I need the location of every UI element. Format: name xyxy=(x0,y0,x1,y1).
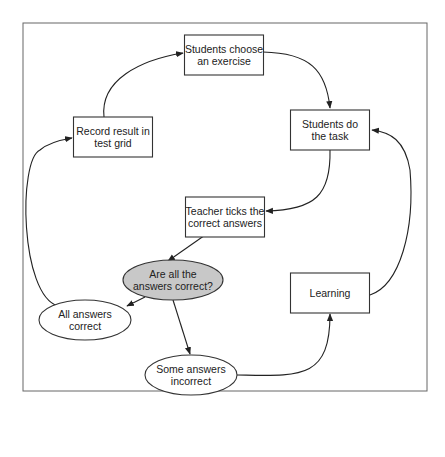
node-some-label: Some answers xyxy=(156,363,225,375)
flowchart-diagram: Students choosean exerciseStudents dothe… xyxy=(0,0,445,457)
node-record: Record result intest grid xyxy=(74,117,153,157)
node-ticks-label: Teacher ticks the xyxy=(186,205,265,217)
node-learning-label: Learning xyxy=(310,287,351,299)
node-decision-label: Are all the xyxy=(149,268,196,280)
node-choose-label: an exercise xyxy=(197,55,251,67)
node-learning: Learning xyxy=(291,273,370,313)
node-choose-label: Students choose xyxy=(185,43,263,55)
node-task-label: Students do xyxy=(302,118,358,130)
node-decision-label: answers correct? xyxy=(133,280,213,292)
node-decision: Are all theanswers correct? xyxy=(123,260,223,300)
node-record-label: Record result in xyxy=(76,125,150,137)
node-task-label: the task xyxy=(312,130,350,142)
node-ticks: Teacher ticks thecorrect answers xyxy=(186,197,265,237)
node-choose: Students choosean exercise xyxy=(185,35,264,75)
node-record-label: test grid xyxy=(94,137,132,149)
node-task: Students dothe task xyxy=(291,110,370,150)
node-all: All answerscorrect xyxy=(39,300,131,340)
node-some-label: incorrect xyxy=(171,375,211,387)
node-ticks-label: correct answers xyxy=(188,217,262,229)
node-all-label: correct xyxy=(69,320,101,332)
node-all-label: All answers xyxy=(58,308,112,320)
node-some: Some answersincorrect xyxy=(145,355,237,395)
